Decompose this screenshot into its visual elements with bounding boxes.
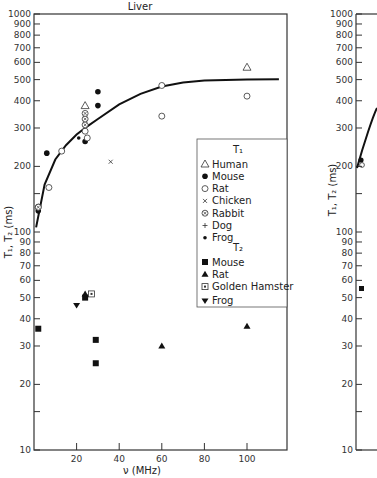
x-axis: 20406080100 [71, 443, 256, 464]
legend-t1-header: T₁ [232, 144, 243, 155]
legend-item: Golden Hamster [212, 281, 294, 292]
svg-text:100: 100 [238, 454, 255, 464]
svg-text:800: 800 [14, 30, 31, 40]
svg-text:90: 90 [20, 237, 32, 247]
svg-text:200: 200 [14, 161, 31, 171]
svg-text:300: 300 [336, 123, 353, 133]
svg-text:10: 10 [342, 445, 354, 455]
svg-text:50: 50 [20, 293, 32, 303]
svg-text:80: 80 [342, 248, 354, 258]
svg-text:20: 20 [20, 379, 32, 389]
svg-text:40: 40 [20, 314, 32, 324]
svg-text:100: 100 [14, 227, 31, 237]
svg-text:900: 900 [336, 19, 353, 29]
svg-text:80: 80 [199, 454, 211, 464]
svg-text:70: 70 [20, 261, 32, 271]
legend-t2-header: T₂ [232, 242, 243, 253]
liver-relaxation-chart: Liver 1020304050607080901002003004005006… [0, 0, 377, 478]
svg-text:100: 100 [336, 227, 353, 237]
legend: T₁ HumanMouseRatChickenRabbitDogFrog T₂ … [197, 139, 294, 307]
legend-item: Mouse [212, 171, 244, 182]
legend-item: Rabbit [212, 208, 244, 219]
svg-text:700: 700 [336, 43, 353, 53]
svg-text:20: 20 [71, 454, 83, 464]
svg-text:10: 10 [20, 445, 32, 455]
y-axis-label: T₁, T₂ (ms) [3, 206, 14, 260]
svg-text:900: 900 [14, 19, 31, 29]
x-axis-label: ν (MHz) [123, 465, 161, 476]
svg-text:60: 60 [20, 275, 32, 285]
svg-text:1000: 1000 [330, 9, 353, 19]
svg-text:600: 600 [336, 57, 353, 67]
svg-text:90: 90 [342, 237, 354, 247]
legend-item: Frog [212, 295, 233, 306]
svg-text:70: 70 [342, 261, 354, 271]
svg-text:20: 20 [342, 379, 354, 389]
svg-text:700: 700 [14, 43, 31, 53]
legend-item: Mouse [212, 257, 244, 268]
legend-item: Rat [212, 269, 229, 280]
svg-text:30: 30 [20, 341, 32, 351]
svg-text:50: 50 [342, 293, 354, 303]
legend-item: Dog [212, 220, 232, 231]
legend-item: Chicken [212, 195, 252, 206]
legend-item: Frog [212, 232, 233, 243]
right-y-axis-label: T₁, T₂ (ms) [327, 164, 338, 218]
svg-text:200: 200 [336, 161, 353, 171]
svg-text:400: 400 [336, 96, 353, 106]
legend-item: Rat [212, 183, 229, 194]
svg-text:40: 40 [113, 454, 125, 464]
svg-text:800: 800 [336, 30, 353, 40]
svg-text:80: 80 [20, 248, 32, 258]
svg-text:60: 60 [156, 454, 168, 464]
svg-text:400: 400 [14, 96, 31, 106]
legend-item: Human [212, 159, 248, 170]
svg-text:30: 30 [342, 341, 354, 351]
svg-text:40: 40 [342, 314, 354, 324]
svg-text:500: 500 [336, 75, 353, 85]
svg-text:500: 500 [14, 75, 31, 85]
svg-text:60: 60 [342, 275, 354, 285]
svg-text:300: 300 [14, 123, 31, 133]
right-panel-partial: 1020304050607080901002003004005006007008… [327, 9, 377, 455]
chart-title: Liver [128, 1, 153, 12]
svg-text:1000: 1000 [8, 9, 31, 19]
svg-text:600: 600 [14, 57, 31, 67]
